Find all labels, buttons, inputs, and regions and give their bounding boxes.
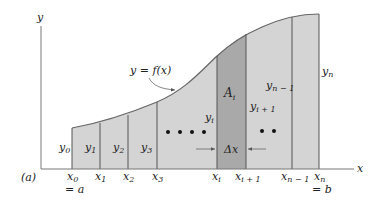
x-tick-labels: x0 = a x1 x2 x3 xi xi + 1 xn − 1 xn = b <box>65 170 332 196</box>
panel-label: (a) <box>21 171 36 184</box>
svg-text:x1: x1 <box>95 170 106 184</box>
svg-text:xi: xi <box>212 170 221 184</box>
svg-text:= b: = b <box>312 183 332 196</box>
svg-text:yn: yn <box>321 65 333 79</box>
riemann-sum-figure: y x y = f(x) Ai y0 y1 y2 y3 yi yi + 1 yn… <box>0 0 382 205</box>
svg-text:x0: x0 <box>67 170 78 184</box>
y-axis-label: y <box>36 11 44 24</box>
svg-text:y0: y0 <box>58 141 70 155</box>
svg-text:xi + 1: xi + 1 <box>235 170 261 184</box>
curve-label: y = f(x) <box>129 64 171 77</box>
svg-text:x2: x2 <box>123 170 134 184</box>
x-axis-label: x <box>357 162 364 175</box>
svg-text:x3: x3 <box>152 170 163 184</box>
svg-text:= a: = a <box>65 183 84 196</box>
svg-text:xn: xn <box>314 170 325 184</box>
svg-text:xn − 1: xn − 1 <box>281 170 309 184</box>
curve-pointer-arrow <box>149 78 175 90</box>
delta-x-label: Δx <box>223 143 239 156</box>
